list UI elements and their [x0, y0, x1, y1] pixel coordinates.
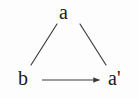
diagram-canvas: a b a'	[0, 0, 139, 98]
node-label-a-prime: a'	[108, 68, 120, 88]
node-label-a: a	[59, 2, 68, 22]
edge-a-to-b	[31, 24, 57, 65]
node-label-b: b	[18, 68, 28, 88]
edge-a-to-a-prime	[80, 24, 106, 65]
